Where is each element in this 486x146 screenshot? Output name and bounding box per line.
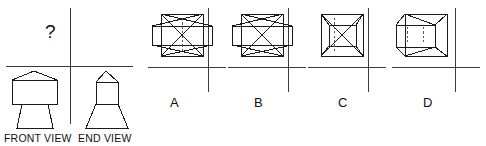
option-d-drawing — [396, 14, 447, 56]
option-d-hidden-lines — [407, 27, 423, 45]
front-view-label: FRONT VIEW — [4, 133, 72, 144]
option-d-label[interactable]: D — [423, 96, 432, 109]
end-view-label: END VIEW — [78, 133, 132, 144]
option-b-drawing — [232, 14, 292, 56]
question-mark: ? — [45, 22, 56, 41]
option-a-label[interactable]: A — [170, 96, 179, 109]
end-view-drawing — [86, 71, 128, 128]
option-b-label[interactable]: B — [254, 96, 263, 109]
option-c-drawing — [321, 14, 363, 56]
given-views-axes — [6, 8, 133, 124]
puzzle-canvas: ? FRONT VIEW END VIEW A B C D — [0, 0, 486, 146]
option-c-label[interactable]: C — [338, 96, 347, 109]
option-c-axes — [308, 8, 386, 92]
puzzle-drawing — [0, 0, 486, 146]
front-view-drawing — [12, 71, 57, 128]
